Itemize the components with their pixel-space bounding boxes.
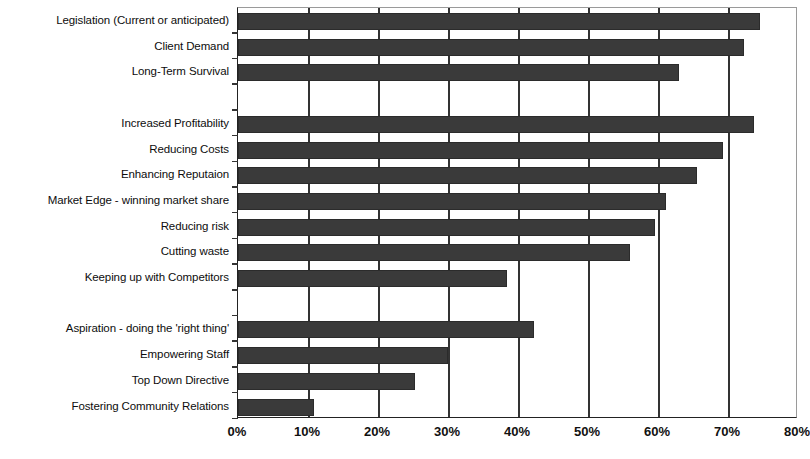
y-axis-tick <box>232 109 238 111</box>
x-tick-label-20: 20% <box>364 424 390 439</box>
bar <box>238 13 760 30</box>
x-tick-label-30: 30% <box>434 424 460 439</box>
category-label: Legislation (Current or anticipated) <box>56 14 229 27</box>
category-label: Cutting waste <box>161 245 229 258</box>
bar <box>238 270 507 287</box>
gridline-70 <box>728 8 730 417</box>
category-label: Increased Profitability <box>121 117 229 130</box>
y-axis-tick <box>232 340 238 342</box>
y-axis-tick <box>232 58 238 60</box>
y-axis-tick <box>232 315 238 317</box>
x-tick-label-50: 50% <box>574 424 600 439</box>
bar <box>238 167 697 184</box>
bar <box>238 321 534 338</box>
bar <box>238 39 744 56</box>
bar <box>238 373 415 390</box>
x-tick-label-40: 40% <box>504 424 530 439</box>
bar <box>238 219 655 236</box>
x-tick-label-10: 10% <box>294 424 320 439</box>
category-labels-column: Legislation (Current or anticipated)Clie… <box>0 0 233 418</box>
category-label: Top Down Directive <box>132 374 229 387</box>
y-axis-tick <box>232 186 238 188</box>
y-axis-tick <box>232 135 238 137</box>
category-label: Long-Term Survival <box>132 65 229 78</box>
y-axis-tick <box>232 32 238 34</box>
x-tick-label-80: 80% <box>784 424 810 439</box>
y-axis-tick <box>232 212 238 214</box>
y-axis-tick <box>232 161 238 163</box>
bar <box>238 244 630 261</box>
y-axis-tick <box>232 263 238 265</box>
x-tick-label-60: 60% <box>644 424 670 439</box>
category-label: Enhancing Reputaion <box>121 168 229 181</box>
category-label: Reducing Costs <box>149 143 229 156</box>
category-label: Aspiration - doing the 'right thing' <box>66 322 229 335</box>
y-axis-tick <box>232 392 238 394</box>
bar <box>238 142 723 159</box>
y-axis-tick <box>232 366 238 368</box>
y-axis-tick <box>232 83 238 85</box>
bar <box>238 399 314 416</box>
plot-area <box>237 7 797 418</box>
x-tick-label-0: 0% <box>228 424 247 439</box>
category-label: Reducing risk <box>161 220 229 233</box>
x-axis-tick-labels: 0%10%20%30%40%50%60%70%80% <box>237 424 797 446</box>
bar <box>238 193 666 210</box>
category-label: Fostering Community Relations <box>71 400 229 413</box>
y-axis-tick <box>232 289 238 291</box>
category-label: Keeping up with Competitors <box>85 271 229 284</box>
bar <box>238 64 679 81</box>
bar <box>238 347 448 364</box>
x-tick-label-70: 70% <box>714 424 740 439</box>
category-label: Empowering Staff <box>140 348 229 361</box>
y-axis-tick <box>232 418 238 420</box>
category-label: Client Demand <box>154 40 229 53</box>
category-label: Market Edge - winning market share <box>48 194 229 207</box>
bar <box>238 116 754 133</box>
y-axis-tick <box>232 238 238 240</box>
